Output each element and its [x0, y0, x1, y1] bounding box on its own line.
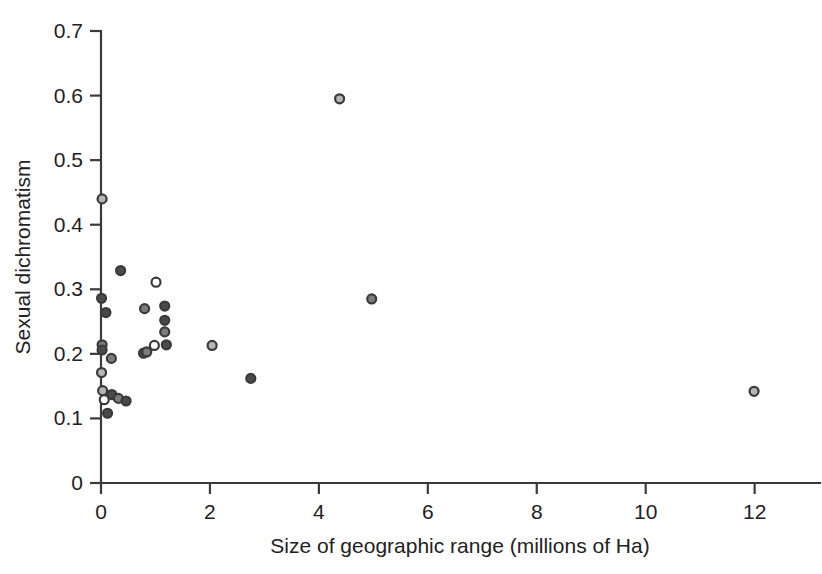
- x-tick-label: 2: [204, 500, 216, 523]
- x-tick-label: 8: [531, 500, 543, 523]
- data-point: [208, 341, 217, 350]
- y-tick-label: 0: [71, 471, 83, 494]
- data-point: [246, 374, 255, 383]
- x-axis-title: Size of geographic range (millions of Ha…: [270, 534, 649, 557]
- scatter-plot-figure: 00.10.20.30.40.50.60.7 024681012 Size of…: [0, 0, 822, 574]
- data-point: [160, 316, 169, 325]
- data-point: [150, 341, 159, 350]
- y-tick-label: 0.1: [54, 406, 83, 429]
- y-tick-label: 0.5: [54, 148, 83, 171]
- axis-tick-marks: [90, 31, 755, 494]
- x-tick-label: 4: [313, 500, 325, 523]
- data-point: [97, 294, 106, 303]
- data-point: [101, 308, 110, 317]
- data-point: [162, 340, 171, 349]
- data-point: [367, 294, 376, 303]
- data-point: [98, 386, 107, 395]
- data-point: [103, 409, 112, 418]
- data-point: [160, 302, 169, 311]
- data-point: [152, 278, 161, 287]
- y-tick-label: 0.3: [54, 277, 83, 300]
- data-point: [122, 396, 131, 405]
- x-tick-label: 12: [743, 500, 766, 523]
- x-tick-label: 0: [95, 500, 107, 523]
- data-point: [98, 194, 107, 203]
- data-point: [107, 354, 116, 363]
- data-point: [160, 327, 169, 336]
- y-tick-label: 0.7: [54, 19, 83, 42]
- data-point-group: [97, 94, 759, 417]
- data-point: [750, 387, 759, 396]
- data-point: [335, 94, 344, 103]
- x-tick-label: 10: [634, 500, 657, 523]
- x-axis-tick-labels: 024681012: [95, 500, 766, 523]
- data-point: [140, 304, 149, 313]
- y-axis-title: Sexual dichromatism: [11, 160, 34, 355]
- y-tick-label: 0.6: [54, 84, 83, 107]
- data-point: [116, 266, 125, 275]
- y-tick-label: 0.4: [54, 213, 84, 236]
- y-axis-tick-labels: 00.10.20.30.40.50.60.7: [54, 19, 84, 494]
- y-tick-label: 0.2: [54, 342, 83, 365]
- data-point: [98, 345, 107, 354]
- data-point: [97, 368, 106, 377]
- x-tick-label: 6: [422, 500, 434, 523]
- plot-canvas: 00.10.20.30.40.50.60.7 024681012 Size of…: [0, 0, 822, 574]
